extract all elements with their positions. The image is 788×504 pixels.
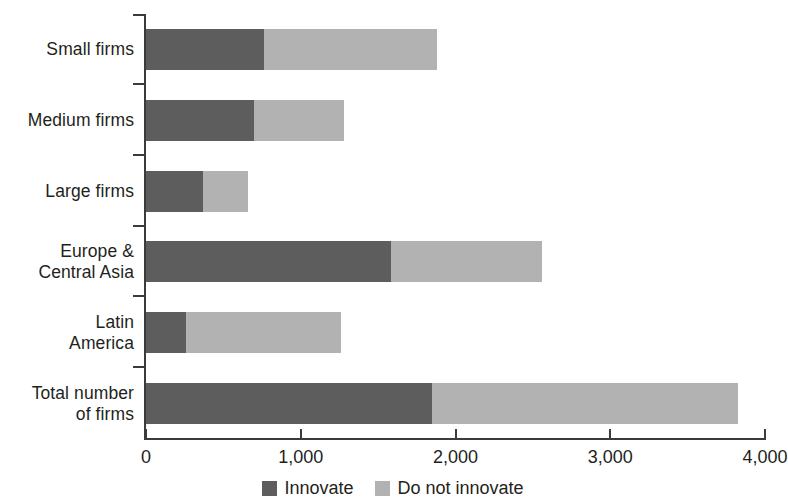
y-axis-tick (133, 83, 145, 85)
x-axis-tick-label: 4,000 (742, 446, 787, 468)
y-axis-tick (133, 14, 145, 16)
bar-row (146, 383, 765, 424)
bar-segment-do-not-innovate (391, 241, 543, 282)
y-axis-label: Large firms (0, 181, 134, 202)
chart-legend: InnovateDo not innovate (0, 478, 786, 498)
y-axis-label: Medium firms (0, 110, 134, 131)
x-axis-tick-label: 2,000 (433, 446, 478, 468)
y-axis-label-line: Total number (0, 383, 134, 404)
y-axis-tick (133, 225, 145, 227)
bar-segment-innovate (146, 241, 391, 282)
bar-row (146, 29, 765, 70)
bar-segment-do-not-innovate (432, 383, 738, 424)
bar-row (146, 100, 765, 141)
bar-segment-innovate (146, 29, 264, 70)
bar-stack (146, 383, 738, 424)
x-axis-tick (145, 429, 147, 440)
y-axis-label-line: Europe & (0, 241, 134, 262)
bar-segment-do-not-innovate (203, 171, 248, 212)
x-axis-tick-label: 3,000 (588, 446, 633, 468)
x-axis-tick (764, 429, 766, 440)
legend-item[interactable]: Do not innovate (375, 478, 523, 498)
y-axis-tick (133, 295, 145, 297)
bar-stack (146, 312, 341, 353)
legend-label: Do not innovate (397, 478, 523, 498)
y-axis-label-line: Medium firms (0, 110, 134, 131)
x-axis-tick-label: 1,000 (278, 446, 323, 468)
plot-area (146, 14, 765, 439)
x-axis-tick-label: 0 (141, 446, 151, 468)
y-axis-label-line: Small firms (0, 39, 134, 60)
y-axis-label: Total numberof firms (0, 383, 134, 425)
bar-stack (146, 100, 344, 141)
y-axis-label: LatinAmerica (0, 312, 134, 354)
y-axis-label-line: Latin (0, 312, 134, 333)
bar-segment-do-not-innovate (254, 100, 344, 141)
y-axis-label-line: Central Asia (0, 262, 134, 283)
bar-segment-innovate (146, 383, 432, 424)
bar-stack (146, 29, 437, 70)
x-axis-tick (455, 429, 457, 440)
legend-swatch-icon (375, 481, 390, 496)
bar-stack (146, 171, 248, 212)
bar-row (146, 312, 765, 353)
y-axis-label-line: of firms (0, 404, 134, 425)
y-axis-label: Small firms (0, 39, 134, 60)
legend-label: Innovate (284, 478, 353, 498)
legend-item[interactable]: Innovate (262, 478, 353, 498)
y-axis-label: Europe &Central Asia (0, 241, 134, 283)
y-axis-tick (133, 154, 145, 156)
bar-row (146, 171, 765, 212)
bar-segment-do-not-innovate (186, 312, 341, 353)
bar-segment-innovate (146, 171, 203, 212)
x-axis-tick (609, 429, 611, 440)
bar-segment-innovate (146, 100, 254, 141)
legend-swatch-icon (262, 481, 277, 496)
bar-segment-do-not-innovate (264, 29, 437, 70)
y-axis-label-line: America (0, 333, 134, 354)
bar-row (146, 241, 765, 282)
x-axis-tick (300, 429, 302, 440)
bar-stack (146, 241, 542, 282)
y-axis-tick (133, 366, 145, 368)
y-axis-label-line: Large firms (0, 181, 134, 202)
bar-segment-innovate (146, 312, 186, 353)
